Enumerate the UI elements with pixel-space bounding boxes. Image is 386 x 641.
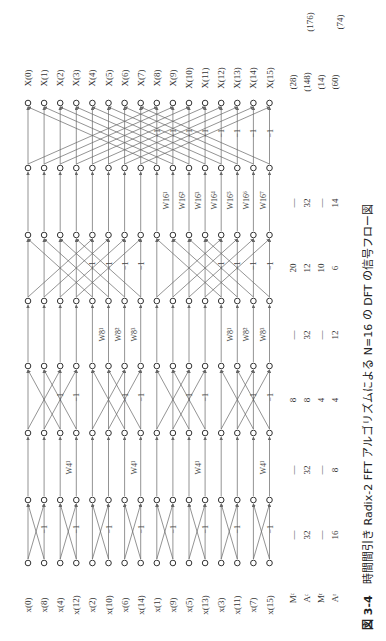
minus-one-label: −1	[169, 525, 178, 534]
table-cell: 10	[316, 263, 326, 273]
table-cell: 4	[330, 397, 340, 402]
input-label: x(9)	[168, 598, 178, 613]
flow-node	[25, 560, 31, 566]
caption-text: 時間間引き Radix-2 FFT アルゴリズムによる N=16 の DFT の…	[361, 204, 375, 584]
flow-node	[57, 232, 63, 238]
minus-one-label: −1	[249, 261, 258, 270]
flow-node	[186, 232, 192, 238]
flow-node	[154, 363, 160, 369]
input-label: x(10)	[104, 595, 114, 615]
flow-node	[218, 232, 224, 238]
flow-node	[25, 363, 31, 369]
fft-signal-flow-diagram: W4¹W4¹W4¹W4¹W8¹W8²W8³W8¹W8²W8³W16¹W16²W1…	[0, 0, 386, 641]
flow-node	[251, 165, 257, 171]
flow-node	[122, 497, 128, 503]
flow-node	[202, 298, 208, 304]
minus-one-label: −1	[137, 261, 146, 270]
flow-node	[267, 363, 273, 369]
flow-node	[138, 165, 144, 171]
twiddle-factor-label: W4¹	[130, 460, 139, 475]
table-cell: —	[288, 198, 298, 209]
flow-node	[154, 497, 160, 503]
flow-node	[267, 430, 273, 436]
input-label: x(11)	[232, 595, 242, 614]
flow-node	[41, 497, 47, 503]
table-cell: —	[316, 530, 326, 541]
input-label: x(2)	[87, 598, 97, 613]
minus-one-label: −1	[169, 129, 178, 138]
flow-node	[90, 363, 96, 369]
minus-one-label: −1	[72, 393, 81, 402]
flow-node	[202, 560, 208, 566]
flow-node	[235, 165, 241, 171]
flow-node	[267, 100, 273, 106]
input-labels: x(0)x(8)x(4)x(12)x(2)x(10)x(6)x(14)x(1)x…	[23, 595, 275, 615]
flow-node	[154, 298, 160, 304]
flow-node	[122, 430, 128, 436]
flow-node	[106, 298, 112, 304]
subtotal-cell: (28)	[288, 75, 298, 90]
minus-one-label: −1	[233, 129, 242, 138]
table-cell: 4	[316, 397, 326, 402]
flow-node	[170, 100, 176, 106]
flow-node	[138, 100, 144, 106]
minus-one-label: −1	[217, 261, 226, 270]
flow-node	[267, 165, 273, 171]
figure-caption: 図 3-4時間間引き Radix-2 FFT アルゴリズムによる N=16 の …	[361, 204, 375, 630]
flow-node	[57, 363, 63, 369]
flow-node	[41, 165, 47, 171]
minus-one-label: −1	[233, 525, 242, 534]
flow-node	[41, 560, 47, 566]
twiddle-factor-label: W16²	[178, 191, 187, 210]
output-label: X(10)	[184, 67, 194, 89]
input-label: x(14)	[136, 595, 146, 615]
flow-node	[74, 497, 80, 503]
flow-node	[186, 363, 192, 369]
output-label: X(0)	[23, 70, 33, 87]
minus-one-label: −1	[217, 129, 226, 138]
flow-node	[235, 430, 241, 436]
table-cell: 32	[302, 466, 312, 475]
table-cell: 16	[330, 530, 340, 540]
flow-node	[57, 298, 63, 304]
minus-one-label: −1	[266, 129, 275, 138]
input-label: x(12)	[71, 595, 81, 615]
minus-one-label: −1	[137, 393, 146, 402]
flow-node	[138, 363, 144, 369]
input-label: x(6)	[120, 598, 130, 613]
flow-node	[106, 165, 112, 171]
table-row-label: Aʳ	[330, 594, 340, 602]
output-label: X(8)	[152, 70, 162, 87]
flow-node	[25, 232, 31, 238]
table-cell: 6	[330, 265, 340, 270]
flow-node	[90, 430, 96, 436]
flow-node	[186, 497, 192, 503]
flow-node	[106, 363, 112, 369]
flow-node	[186, 165, 192, 171]
twiddle-factor-label: W16³	[194, 191, 203, 210]
output-label: X(6)	[120, 70, 130, 87]
output-label: X(3)	[71, 70, 81, 87]
table-cell: —	[288, 330, 298, 341]
twiddle-factor-label: W16⁷	[259, 191, 268, 210]
table-cell: 8	[330, 467, 340, 472]
flow-node	[202, 100, 208, 106]
flow-node	[154, 100, 160, 106]
flow-node	[41, 298, 47, 304]
flow-node	[218, 298, 224, 304]
flow-node	[170, 232, 176, 238]
minus-one-label: −1	[88, 261, 97, 270]
flow-node	[170, 363, 176, 369]
minus-one-label: −1	[56, 393, 65, 402]
flow-node	[267, 560, 273, 566]
flow-node	[25, 430, 31, 436]
table-cell: 14	[330, 198, 340, 208]
flow-node	[90, 165, 96, 171]
table-row-label: Mᶜ	[288, 592, 298, 603]
minus-one-label: −1	[105, 525, 114, 534]
flow-node	[235, 363, 241, 369]
flow-node	[251, 363, 257, 369]
flow-node	[57, 100, 63, 106]
flow-node	[218, 363, 224, 369]
flow-node	[170, 165, 176, 171]
